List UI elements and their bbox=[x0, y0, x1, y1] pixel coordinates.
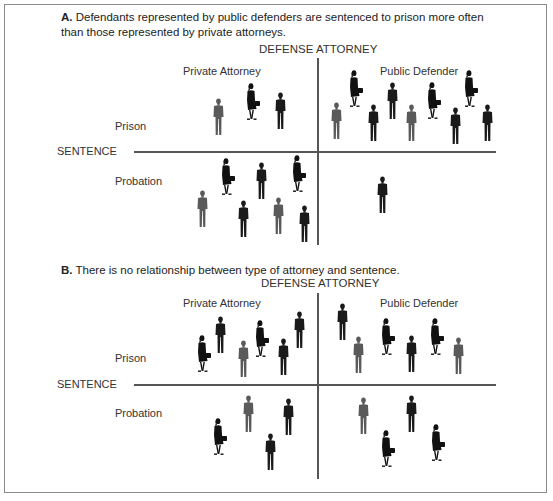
man-figure-icon bbox=[336, 303, 349, 345]
panel-a-letter: A. bbox=[61, 11, 73, 23]
man-figure-icon bbox=[376, 176, 389, 218]
man-figure-icon bbox=[264, 433, 277, 475]
man-figure-icon bbox=[352, 336, 365, 378]
panel-b-statement: B. There is no relationship between type… bbox=[61, 263, 501, 278]
man-figure-icon bbox=[405, 104, 418, 146]
man-figure-icon bbox=[293, 311, 306, 353]
woman-figure-icon bbox=[254, 320, 270, 362]
man-figure-icon bbox=[367, 104, 380, 146]
panel-b-horizontal-axis bbox=[134, 384, 496, 386]
panel-a-column-public: Public Defender bbox=[380, 65, 458, 77]
panel-a-row-axis-label: SENTENCE bbox=[57, 145, 117, 157]
panel-b-row-probation: Probation bbox=[115, 407, 162, 419]
panel-a-vertical-axis bbox=[317, 58, 319, 245]
man-figure-icon bbox=[452, 337, 465, 379]
man-figure-icon bbox=[405, 335, 418, 377]
man-figure-icon bbox=[237, 200, 250, 242]
panel-b-row-prison: Prison bbox=[115, 352, 146, 364]
panel-b-column-axis-label: DEFENSE ATTORNEY bbox=[261, 277, 379, 289]
panel-a-row-prison: Prison bbox=[115, 120, 146, 132]
man-figure-icon bbox=[214, 316, 227, 358]
woman-figure-icon bbox=[463, 70, 479, 112]
man-figure-icon bbox=[212, 98, 225, 140]
panel-b-column-private: Private Attorney bbox=[183, 297, 261, 309]
woman-figure-icon bbox=[380, 430, 396, 472]
man-figure-icon bbox=[405, 395, 418, 437]
panel-a-text: Defendants represented by public defende… bbox=[61, 11, 484, 38]
woman-figure-icon bbox=[196, 335, 212, 377]
woman-figure-icon bbox=[430, 424, 446, 466]
man-figure-icon bbox=[386, 82, 399, 124]
panel-a-column-private: Private Attorney bbox=[183, 65, 261, 77]
man-figure-icon bbox=[298, 205, 311, 247]
panel-a-column-axis-label: DEFENSE ATTORNEY bbox=[259, 43, 377, 55]
panel-b-letter: B. bbox=[61, 264, 73, 276]
man-figure-icon bbox=[481, 104, 494, 146]
panel-b-row-axis-label: SENTENCE bbox=[57, 378, 117, 390]
man-figure-icon bbox=[237, 340, 250, 382]
woman-figure-icon bbox=[220, 158, 236, 200]
panel-a-row-probation: Probation bbox=[115, 175, 162, 187]
man-figure-icon bbox=[277, 338, 290, 380]
man-figure-icon bbox=[255, 162, 268, 204]
man-figure-icon bbox=[449, 107, 462, 149]
woman-figure-icon bbox=[380, 318, 396, 360]
panel-b-text: There is no relationship between type of… bbox=[76, 264, 400, 276]
woman-figure-icon bbox=[426, 82, 442, 124]
man-figure-icon bbox=[274, 92, 287, 134]
panel-a-statement: A. Defendants represented by public defe… bbox=[61, 10, 501, 40]
man-figure-icon bbox=[272, 197, 285, 239]
panel-a-horizontal-axis bbox=[134, 151, 496, 153]
panel-b-column-public: Public Defender bbox=[380, 297, 458, 309]
man-figure-icon bbox=[242, 395, 255, 437]
panel-b-vertical-axis bbox=[317, 293, 319, 479]
woman-figure-icon bbox=[291, 155, 307, 197]
man-figure-icon bbox=[357, 397, 370, 439]
man-figure-icon bbox=[330, 102, 343, 144]
woman-figure-icon bbox=[429, 318, 445, 360]
woman-figure-icon bbox=[245, 83, 261, 125]
woman-figure-icon bbox=[348, 70, 364, 112]
man-figure-icon bbox=[196, 190, 209, 232]
man-figure-icon bbox=[282, 398, 295, 440]
woman-figure-icon bbox=[212, 418, 228, 460]
